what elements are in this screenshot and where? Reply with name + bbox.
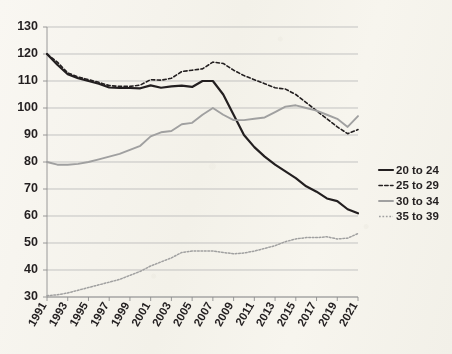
data-series-group [47,54,358,296]
x-tick-label-2017: 2017 [295,300,318,328]
y-tick-label-80: 80 [24,154,38,168]
y-tick-label-40: 40 [24,262,38,276]
x-tick-label-2013: 2013 [254,300,277,328]
x-tick-label-2003: 2003 [150,300,173,328]
y-tick-label-100: 100 [17,100,38,114]
series-line-25-to-29 [47,54,358,134]
x-tick-label-1991: 1991 [26,299,49,328]
y-tick-label-30: 30 [24,289,38,303]
line-chart: 13012011010090807060504030 1991199319951… [0,0,452,354]
x-tick-label-2001: 2001 [129,299,152,328]
x-tick-label-1993: 1993 [46,300,69,328]
x-tick-label-2007: 2007 [191,300,214,328]
y-tick-label-90: 90 [24,127,38,141]
x-tick-label-2005: 2005 [171,299,194,328]
y-tick-label-60: 60 [24,208,38,222]
legend-label-30-to-34[interactable]: 30 to 34 [396,195,439,207]
y-tick-label-50: 50 [24,235,38,249]
x-axis-tick-labels: 1991199319951997199920012003200520072009… [26,299,360,328]
y-axis-tick-labels: 13012011010090807060504030 [17,19,38,303]
y-tick-label-130: 130 [17,19,38,33]
x-tick-label-1995: 1995 [67,299,90,328]
x-tick-label-2011: 2011 [233,299,256,327]
y-tick-label-120: 120 [17,46,38,60]
y-tick-label-110: 110 [18,73,38,87]
legend-label-20-to-24[interactable]: 20 to 24 [396,164,439,176]
x-tick-label-1997: 1997 [88,300,111,328]
x-tick-label-2021: 2021 [337,299,360,328]
chart-legend: 20 to 2425 to 2930 to 3435 to 39 [379,164,439,223]
chart-svg: 13012011010090807060504030 1991199319951… [0,0,452,354]
y-tick-label-70: 70 [24,181,38,195]
x-tick-label-2009: 2009 [212,300,235,328]
x-tick-label-1999: 1999 [108,300,131,328]
legend-label-25-to-29[interactable]: 25 to 29 [396,179,439,191]
x-tick-label-2015: 2015 [274,299,297,328]
x-tick-label-2019: 2019 [316,300,339,328]
legend-label-35-to-39[interactable]: 35 to 39 [396,210,439,222]
